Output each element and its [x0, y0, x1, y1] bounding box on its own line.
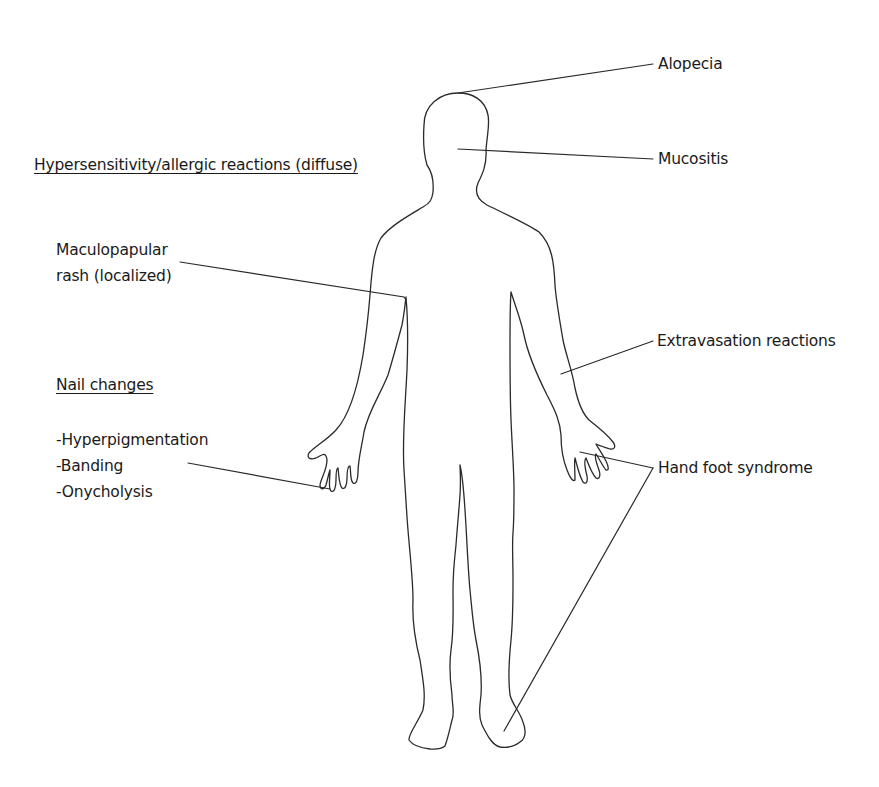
leader-line-mucositis [458, 149, 653, 159]
leader-line-extravasation [561, 341, 653, 374]
label-hand-foot-syndrome: Hand foot syndrome [658, 455, 813, 481]
leader-line-hand-foot-hand [580, 452, 653, 468]
nail-item-hyperpigmentation: -Hyperpigmentation [56, 427, 208, 453]
label-alopecia: Alopecia [658, 51, 723, 77]
nail-item-onycholysis: -Onycholysis [56, 479, 208, 505]
label-maculopapular-line2: rash (localized) [56, 263, 172, 289]
label-nail-changes-heading: Nail changes [56, 372, 153, 398]
label-mucositis: Mucositis [658, 146, 728, 172]
body-silhouette [308, 93, 615, 749]
leader-line-alopecia [458, 64, 653, 93]
toxicity-body-diagram: Alopecia Mucositis Hypersensitivity/alle… [0, 0, 879, 787]
label-maculopapular-line1: Maculopapular [56, 237, 172, 263]
leader-line-nail-changes [188, 463, 330, 489]
label-hypersensitivity-heading: Hypersensitivity/allergic reactions (dif… [34, 152, 358, 178]
label-nail-changes-list: -Hyperpigmentation -Banding -Onycholysis [56, 427, 208, 505]
label-maculopapular-rash: Maculopapular rash (localized) [56, 237, 172, 289]
nail-item-banding: -Banding [56, 453, 208, 479]
label-extravasation: Extravasation reactions [657, 328, 836, 354]
leader-line-hand-foot-foot [504, 468, 653, 731]
